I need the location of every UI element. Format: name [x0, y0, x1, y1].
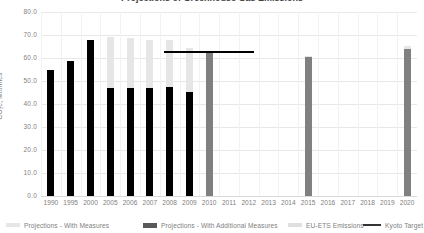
- vertical-gridline: [219, 12, 220, 196]
- gridline: [41, 196, 417, 197]
- gridline: [41, 81, 417, 82]
- legend-swatch-icon: [288, 223, 302, 227]
- y-tick-label: 30.0: [24, 123, 37, 130]
- y-tick-label: 60.0: [24, 54, 37, 61]
- legend-swatch-icon: [363, 224, 381, 226]
- gridline: [41, 150, 417, 151]
- vertical-gridline: [397, 12, 398, 196]
- vertical-gridline: [377, 12, 378, 196]
- chart-legend: Projections - With MeasuresProjections -…: [0, 217, 424, 233]
- bar: [146, 88, 153, 196]
- legend-item[interactable]: Projections - With Measures: [6, 222, 109, 229]
- bar: [166, 87, 173, 196]
- bar: [404, 49, 411, 196]
- bar: [107, 88, 114, 196]
- vertical-gridline: [120, 12, 121, 196]
- legend-label: Kyoto Target: [385, 222, 423, 229]
- bar: [67, 61, 74, 196]
- bar: [305, 57, 312, 196]
- y-tick-label: 40.0: [24, 100, 37, 107]
- chart-container: Projections of Greenhouse Gas Emissions …: [0, 0, 424, 233]
- gridline: [41, 58, 417, 59]
- y-tick-label: 20.0: [24, 146, 37, 153]
- vertical-gridline: [298, 12, 299, 196]
- gridline: [41, 173, 417, 174]
- vertical-gridline: [338, 12, 339, 196]
- bar: [206, 53, 213, 196]
- legend-swatch-icon: [143, 223, 157, 228]
- vertical-gridline: [199, 12, 200, 196]
- y-tick-label: 70.0: [24, 31, 37, 38]
- y-tick-label: 80.0: [24, 8, 37, 15]
- y-tick-label: 50.0: [24, 77, 37, 84]
- vertical-gridline: [180, 12, 181, 196]
- vertical-gridline: [100, 12, 101, 196]
- legend-swatch-icon: [6, 223, 20, 227]
- y-axis-label: CO₂e, Mtonnes: [0, 36, 3, 156]
- vertical-gridline: [61, 12, 62, 196]
- vertical-gridline: [278, 12, 279, 196]
- y-tick-label: 0.0: [27, 192, 37, 199]
- gridline: [41, 104, 417, 105]
- x-tick-label: 2020: [395, 199, 419, 206]
- vertical-gridline: [239, 12, 240, 196]
- plot-area: [41, 12, 417, 196]
- gridline: [41, 127, 417, 128]
- vertical-gridline: [140, 12, 141, 196]
- gridline: [41, 12, 417, 13]
- vertical-gridline: [81, 12, 82, 196]
- bar: [87, 40, 94, 196]
- legend-item[interactable]: EU-ETS Emissions: [288, 222, 364, 229]
- bar: [186, 92, 193, 196]
- legend-label: Projections - With Additional Measures: [161, 222, 278, 229]
- legend-label: EU-ETS Emissions: [306, 222, 364, 229]
- vertical-gridline: [41, 12, 42, 196]
- kyoto-target-line: [164, 51, 254, 53]
- y-tick-label: 10.0: [24, 169, 37, 176]
- vertical-gridline: [318, 12, 319, 196]
- legend-item[interactable]: Kyoto Target: [363, 222, 423, 229]
- vertical-gridline: [358, 12, 359, 196]
- gridline: [41, 35, 417, 36]
- chart-title: Projections of Greenhouse Gas Emissions: [0, 0, 424, 3]
- vertical-gridline: [259, 12, 260, 196]
- legend-item[interactable]: Projections - With Additional Measures: [143, 222, 278, 229]
- vertical-gridline: [160, 12, 161, 196]
- bar: [127, 88, 134, 196]
- legend-label: Projections - With Measures: [24, 222, 109, 229]
- bar: [47, 70, 54, 196]
